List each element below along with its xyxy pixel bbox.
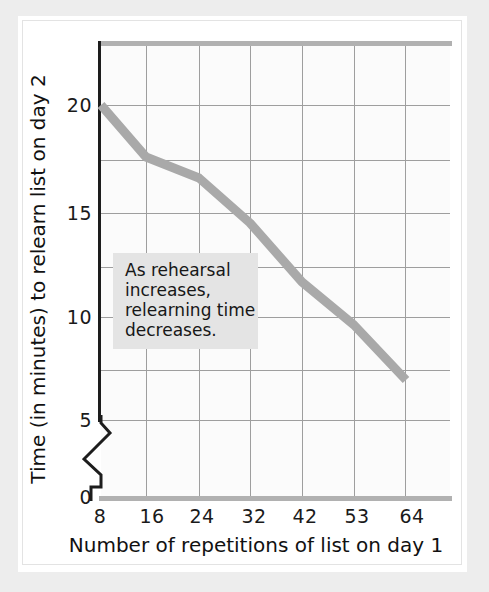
annotation-line-2: increases,: [125, 280, 248, 300]
gridline-vertical-42: [302, 44, 303, 499]
x-tick-label-64: 64: [382, 505, 442, 527]
page-background: 20 15 10 5 0 8 16 24 32 42 53 64 Time (i…: [0, 0, 489, 592]
annotation-line-4: decreases.: [125, 320, 248, 340]
x-tick-label-8: 8: [70, 505, 130, 527]
annotation-line-3: relearning time: [125, 300, 248, 320]
gridline-horizontal-20: [101, 105, 450, 106]
x-tick-label-42: 42: [275, 505, 335, 527]
gridline-horizontal-17_5: [101, 160, 450, 161]
line-chart-figure: 20 15 10 5 0 8 16 24 32 42 53 64 Time (i…: [0, 0, 489, 592]
y-axis-spine: [98, 41, 101, 422]
gridline-vertical-64: [405, 44, 406, 499]
gridline-horizontal-15: [101, 213, 450, 214]
x-tick-label-24: 24: [172, 505, 232, 527]
x-axis-rule: [99, 496, 452, 501]
y-axis-title: Time (in minutes) to relearn list on day…: [26, 69, 50, 489]
annotation-callout: As rehearsal increases, relearning time …: [113, 253, 258, 349]
axis-top-rule: [99, 41, 452, 46]
gridline-vertical-53: [354, 44, 355, 499]
x-axis-title: Number of repetitions of list on day 1: [56, 533, 456, 557]
x-tick-label-53: 53: [327, 505, 387, 527]
annotation-line-1: As rehearsal: [125, 260, 248, 280]
gridline-horizontal-5: [101, 420, 450, 421]
gridline-horizontal-7_5: [101, 370, 450, 371]
